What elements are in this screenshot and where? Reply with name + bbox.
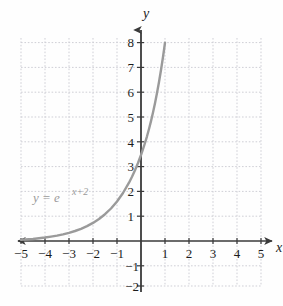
x-tick-label: −3 — [62, 246, 76, 261]
y-tick-label: 7 — [128, 60, 135, 75]
x-tick-label: 3 — [210, 246, 217, 261]
curve-equation-exponent: x+2 — [71, 186, 88, 197]
x-tick-label: −4 — [38, 246, 52, 261]
x-tick-label: 1 — [162, 246, 169, 261]
x-tick-labels: −5 −4 −3 −2 −1 1 2 3 4 5 — [14, 246, 264, 261]
curve-equation-base: y = e — [31, 190, 60, 205]
y-tick-label: 6 — [128, 85, 135, 100]
y-tick-label: 5 — [128, 110, 135, 125]
y-axis-name-label: y — [141, 6, 150, 21]
x-tick-label: 4 — [234, 246, 241, 261]
y-tick-label: 1 — [128, 209, 135, 224]
coordinate-plane-svg: −5 −4 −3 −2 −1 1 2 3 4 5 8 7 6 5 4 3 2 1… — [0, 0, 283, 306]
x-tick-label: −5 — [14, 246, 28, 261]
y-tick-label: −2 — [125, 279, 139, 294]
x-axis-name-label: x — [275, 240, 283, 255]
x-tick-label: 5 — [258, 246, 265, 261]
y-tick-label: 8 — [128, 35, 135, 50]
y-tick-label: 2 — [128, 184, 135, 199]
y-tick-label: 4 — [128, 135, 135, 150]
y-tick-label: −1 — [125, 259, 139, 274]
curve-equation-label: y = e x+2 — [31, 186, 88, 205]
x-tick-label: −1 — [110, 246, 124, 261]
x-tick-label: 2 — [186, 246, 193, 261]
x-tick-label: −2 — [86, 246, 100, 261]
graph-figure: −5 −4 −3 −2 −1 1 2 3 4 5 8 7 6 5 4 3 2 1… — [0, 0, 283, 306]
